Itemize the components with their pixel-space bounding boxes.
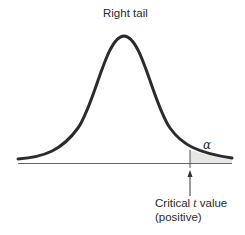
arrow-up-icon <box>188 170 193 177</box>
critical-label-prefix: Critical <box>155 197 193 209</box>
critical-label-suffix: value <box>197 197 228 209</box>
title-label: Right tail <box>103 6 148 20</box>
alpha-label: α <box>203 138 211 152</box>
critical-value-label: Critical t value <box>155 196 227 210</box>
density-curve <box>18 36 232 159</box>
critical-value-sublabel: (positive) <box>155 210 202 224</box>
